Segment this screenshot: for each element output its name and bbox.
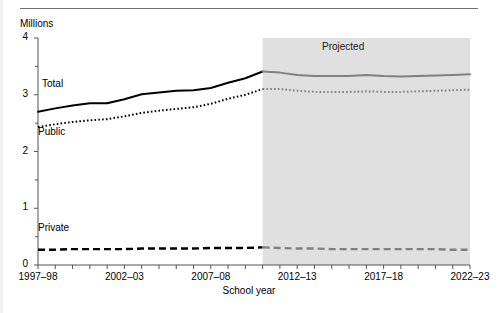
y-tick-label: 3 — [12, 88, 28, 99]
series-label-total: Total — [42, 78, 63, 89]
series-line-public-historical — [38, 89, 263, 127]
x-axis-title: School year — [0, 285, 498, 296]
x-tick-label: 2002–03 — [105, 271, 144, 282]
x-tick-label: 2012–13 — [278, 271, 317, 282]
y-tick-label: 2 — [12, 145, 28, 156]
y-tick-label: 1 — [12, 201, 28, 212]
series-line-private-historical — [38, 247, 263, 249]
x-tick-label: 1997–98 — [19, 271, 58, 282]
projected-region-label: Projected — [322, 41, 364, 52]
x-tick-label: 2017–18 — [364, 271, 403, 282]
series-label-private: Private — [38, 222, 69, 233]
x-tick-label: 2022–23 — [451, 271, 490, 282]
x-tick-label: 2007–08 — [191, 271, 230, 282]
y-tick-label: 4 — [12, 31, 28, 42]
line-chart-plot — [0, 0, 498, 313]
y-tick-label: 0 — [12, 258, 28, 269]
chart-figure: Millions Total Public Private Projected … — [0, 0, 498, 313]
series-label-public: Public — [38, 126, 65, 137]
series-line-total-historical — [38, 71, 263, 111]
